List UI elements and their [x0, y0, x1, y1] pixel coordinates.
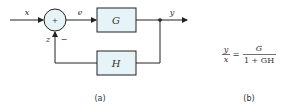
- transfer-function: y x = G 1 + GH: [222, 44, 276, 65]
- equals-sign: =: [233, 50, 240, 59]
- lhs-denominator: x: [224, 55, 229, 64]
- minus-sign: −: [61, 35, 68, 44]
- lhs-numerator: y: [223, 45, 229, 54]
- block-g-label: G: [112, 15, 120, 26]
- signal-x-label: x: [25, 8, 30, 17]
- feedback-line-right: [136, 20, 160, 63]
- signal-e-label: e: [78, 8, 83, 17]
- block-diagram: + G H x e y z − (a) (b) y x = G 1 + GH: [0, 0, 281, 107]
- caption-a: (a): [94, 94, 105, 103]
- rhs-numerator: G: [256, 44, 263, 53]
- signal-y-label: y: [169, 8, 175, 17]
- signal-z-label: z: [45, 35, 51, 44]
- plus-sign: +: [52, 17, 58, 25]
- block-h-label: H: [111, 58, 121, 69]
- rhs-denominator: 1 + GH: [244, 56, 274, 65]
- caption-b: (b): [243, 94, 254, 103]
